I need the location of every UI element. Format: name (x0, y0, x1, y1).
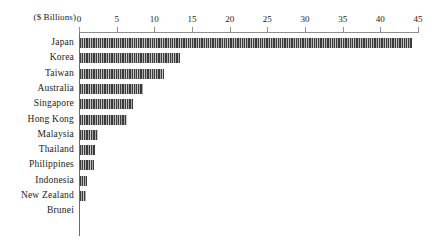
category-label: Philippines (0, 159, 74, 169)
bar (80, 38, 412, 48)
bar-row: Japan (0, 36, 436, 51)
category-label: Thailand (0, 144, 74, 154)
x-tick-label: 10 (150, 14, 159, 24)
x-tick-label: 40 (376, 14, 385, 24)
category-label: Malaysia (0, 129, 74, 139)
x-tick-mark (305, 27, 306, 33)
x-tick-mark (418, 27, 419, 33)
bar (80, 115, 127, 125)
x-tick-label: 15 (188, 14, 197, 24)
bar-row: Indonesia (0, 174, 436, 189)
bar (80, 84, 143, 94)
bar (80, 99, 133, 109)
x-tick-mark (154, 27, 155, 33)
bar-row: Hong Kong (0, 113, 436, 128)
bar (80, 160, 94, 170)
x-tick-mark (117, 27, 118, 33)
bar-row: Singapore (0, 97, 436, 112)
x-tick-mark (343, 27, 344, 33)
top-axis-line (79, 32, 418, 33)
category-label: Singapore (0, 98, 74, 108)
x-tick-mark (192, 27, 193, 33)
bar-chart-figure: ($ Billions) 051015202530354045 JapanKor… (0, 0, 436, 249)
category-label: Brunei (0, 205, 74, 215)
x-tick-mark (79, 27, 80, 33)
category-label: New Zealand (0, 190, 74, 200)
category-label: Australia (0, 83, 74, 93)
bar (80, 69, 164, 79)
x-tick-mark (230, 27, 231, 33)
bar-row: Taiwan (0, 67, 436, 82)
bar (80, 130, 98, 140)
category-label: Taiwan (0, 68, 74, 78)
category-label: Hong Kong (0, 114, 74, 124)
bar-row: New Zealand (0, 189, 436, 204)
x-tick-label: 5 (114, 14, 119, 24)
bar (80, 191, 86, 201)
category-label: Korea (0, 52, 74, 62)
bar-row: Philippines (0, 158, 436, 173)
bar-row: Thailand (0, 143, 436, 158)
bar-row: Malaysia (0, 128, 436, 143)
x-tick-label: 45 (414, 14, 423, 24)
x-tick-mark (267, 27, 268, 33)
x-tick-label: 30 (301, 14, 310, 24)
x-tick-label: 20 (225, 14, 234, 24)
bar-row: Korea (0, 51, 436, 66)
x-tick-label: 35 (338, 14, 347, 24)
bar (80, 145, 95, 155)
category-label: Japan (0, 37, 74, 47)
x-tick-label: 0 (77, 14, 82, 24)
category-label: Indonesia (0, 175, 74, 185)
bar (80, 53, 180, 63)
bar (80, 176, 87, 186)
x-tick-label: 25 (263, 14, 272, 24)
x-tick-mark (380, 27, 381, 33)
bar-row: Brunei (0, 204, 436, 219)
bar-row: Australia (0, 82, 436, 97)
axis-unit-caption: ($ Billions) (6, 12, 76, 22)
